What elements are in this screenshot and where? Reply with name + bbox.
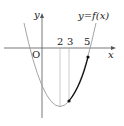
endpoint-x3 [67, 99, 70, 102]
endpoint-x5 [86, 55, 89, 58]
function-label: y=f(x) [77, 10, 109, 21]
y-axis-arrow-icon [40, 13, 44, 18]
tick-label-3: 3 [67, 36, 73, 47]
tick-label-5: 5 [84, 36, 90, 47]
highlighted-segment [69, 57, 88, 101]
origin-label: O [32, 49, 40, 60]
function-graph: y x O 2 3 5 y=f(x) [0, 0, 124, 126]
y-axis-label: y [33, 9, 40, 20]
tick-label-2: 2 [57, 36, 63, 47]
x-axis-label: x [108, 49, 114, 60]
